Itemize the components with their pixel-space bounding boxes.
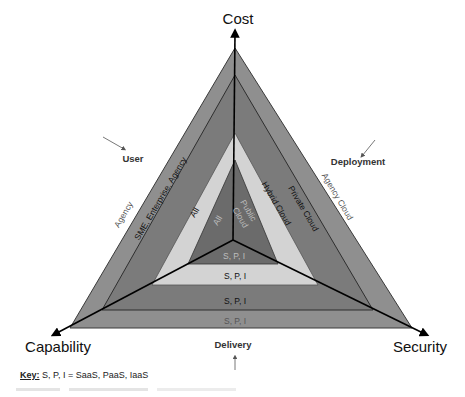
legend-key: Key: S, P, I = SaaS, PaaS, IaaS	[20, 370, 148, 380]
delivery-layer-4-label: S, P, I	[223, 251, 245, 261]
axis-label-cost: Cost	[223, 10, 255, 27]
axis-label-capability: Capability	[25, 338, 91, 355]
axis-label-security: Security	[393, 338, 448, 355]
group-label-delivery: Delivery	[215, 339, 253, 350]
user-arrow-icon	[103, 137, 124, 149]
key-label: Key:	[20, 370, 40, 380]
group-label-user: User	[122, 153, 143, 164]
delivery-layer-3-label: S, P, I	[224, 271, 246, 281]
delivery-layer-1-label: S, P, I	[224, 316, 246, 326]
delivery-layer-2-label: S, P, I	[224, 296, 246, 306]
key-text: S, P, I = SaaS, PaaS, IaaS	[42, 370, 148, 380]
cloud-triangle-diagram: Cost Capability Security User Deployment…	[0, 0, 465, 397]
deployment-arrow-icon	[362, 140, 375, 156]
truncated-caption	[16, 388, 236, 391]
group-label-deployment: Deployment	[331, 156, 386, 167]
